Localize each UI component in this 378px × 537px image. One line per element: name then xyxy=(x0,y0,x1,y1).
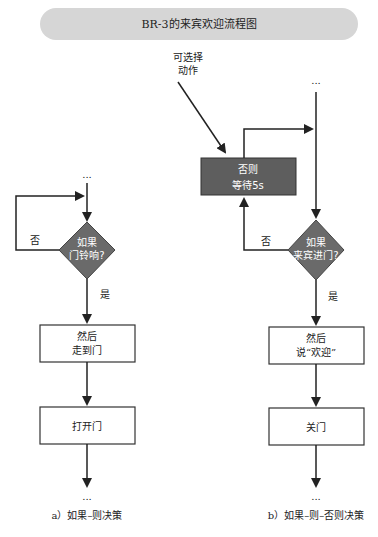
left-decision-line2: 门铃响? xyxy=(69,249,104,261)
else-return-arrow xyxy=(244,129,312,158)
right-end-ellipsis: ... xyxy=(311,491,321,502)
else-box-line2: 等待5s xyxy=(232,179,264,191)
left-box2-line1: 打开门 xyxy=(72,420,102,432)
right-decision-line1: 如果 xyxy=(306,236,326,248)
right-decision-line2: 来宾进门? xyxy=(293,249,338,261)
left-action-box-2: 打开门 xyxy=(40,407,135,444)
right-decision-diamond: 如果 来宾进门? xyxy=(288,220,344,280)
left-flowchart: ... 否 如果 门铃响? 是 然后 走到门 打开门 ... a）如果–则决策 xyxy=(16,169,135,521)
right-no-label: 否 xyxy=(261,236,271,247)
right-box1-line2: 说“欢迎” xyxy=(296,346,336,358)
right-box2-line1: 关门 xyxy=(306,421,326,433)
right-action-box-2: 关门 xyxy=(269,408,364,445)
right-flowchart: 可选择 动作 ... 否则 等待5s 如果 来宾进门? 否 是 然后 说 xyxy=(173,51,364,521)
left-decision-line1: 如果 xyxy=(77,236,97,248)
left-caption: a）如果–则决策 xyxy=(52,509,123,521)
flowchart-canvas: BR-3的来宾欢迎流程图 ... 否 如果 门铃响? 是 然后 走到门 打开门 xyxy=(0,0,378,537)
left-yes-label: 是 xyxy=(100,289,110,300)
optional-action-label-line2: 动作 xyxy=(178,65,198,76)
right-caption: b）如果–则–否则决策 xyxy=(268,509,364,521)
right-yes-label: 是 xyxy=(328,291,338,302)
optional-action-label-line1: 可选择 xyxy=(173,51,203,63)
right-action-box-1: 然后 说“欢迎” xyxy=(269,327,364,364)
right-start-ellipsis: ... xyxy=(311,75,321,86)
left-end-ellipsis: ... xyxy=(82,491,92,502)
left-box1-line2: 走到门 xyxy=(72,344,102,356)
left-no-label: 否 xyxy=(30,235,40,246)
else-box-line1: 否则 xyxy=(238,163,258,175)
left-action-box-1: 然后 走到门 xyxy=(40,325,135,362)
left-start-ellipsis: ... xyxy=(82,169,92,180)
right-box1-line1: 然后 xyxy=(306,332,326,344)
left-box1-line1: 然后 xyxy=(77,330,97,342)
optional-action-arrow xyxy=(178,82,225,152)
title-banner: BR-3的来宾欢迎流程图 xyxy=(40,8,358,40)
left-decision-diamond: 如果 门铃响? xyxy=(59,222,115,279)
else-wait-box: 否则 等待5s xyxy=(201,158,296,195)
diagram-title: BR-3的来宾欢迎流程图 xyxy=(141,17,256,31)
